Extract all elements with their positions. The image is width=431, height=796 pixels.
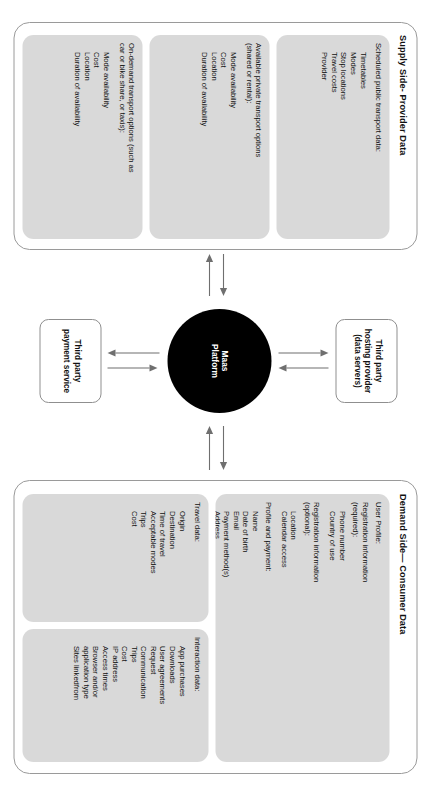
card-item-list: App purchases Downloads User agreements … — [71, 646, 186, 754]
card-heading: Scheduled public transport data: — [373, 43, 382, 231]
card-item-list: Phone number Country of use — [326, 511, 345, 754]
card-item-list: Mode availability Cost Location Duration… — [199, 52, 237, 231]
list-item: Mode availability — [100, 52, 110, 231]
third-party-payment-service-node: Third party payment service — [39, 319, 101, 403]
card-heading: Available private transport options (sha… — [243, 43, 262, 231]
list-item: Country of use — [326, 511, 336, 754]
maas-data-ecosystem-diagram: Supply Side- Provider Data Scheduled pub… — [0, 0, 431, 796]
list-item: Location — [208, 52, 218, 231]
list-item: Cost — [218, 52, 228, 231]
list-item: Location — [81, 52, 91, 231]
list-item: Downloads — [166, 646, 176, 754]
third-party-payment-service-label: Third party payment service — [59, 329, 80, 393]
list-item: Modes — [347, 52, 357, 231]
user-profile-group-profile-payment: Profile and payment: Name Date of birth … — [215, 502, 272, 754]
list-item: Calendar access — [278, 511, 288, 754]
list-item: Duration of availability — [199, 52, 209, 231]
demand-side-panel: Demand Side— Consumer Data User Profile:… — [13, 480, 417, 774]
user-profile-group-required: Registration information (required): Pho… — [326, 502, 368, 754]
list-item: Travel costs — [328, 52, 338, 231]
list-item: Browser and/or application type — [80, 646, 99, 754]
group-subheading: Registration information (required): — [350, 502, 369, 754]
list-item: Payment method(s) — [221, 511, 231, 754]
list-item: Time of travel — [157, 511, 167, 614]
list-item: Location — [288, 511, 298, 754]
list-item: Trips — [128, 646, 138, 754]
list-item: Name — [249, 511, 259, 754]
list-item: Duration of availability — [72, 52, 82, 231]
list-item: User agreements — [157, 646, 167, 754]
card-item-list: Origin Destination Time of travel Accept… — [128, 511, 185, 614]
list-item: Request — [147, 646, 157, 754]
card-heading: On-demand transport options (such as car… — [116, 43, 135, 231]
arrow-platform-to-payment-service — [105, 341, 161, 381]
list-item: Address — [215, 511, 221, 754]
maas-platform-label: Maas Platform — [209, 344, 230, 378]
arrow-supply-to-platform — [195, 252, 235, 298]
list-item: App purchases — [176, 646, 186, 754]
list-item: Cost — [91, 52, 101, 231]
card-user-profile: User Profile: Registration information (… — [215, 494, 389, 762]
card-travel-data: Travel data: Origin Destination Time of … — [22, 494, 208, 622]
list-item: Acceptable modes — [147, 511, 157, 614]
list-item: Email — [230, 511, 240, 754]
card-interaction-data: Interaction data: App purchases Download… — [22, 629, 208, 762]
group-subheading: Profile and payment: — [263, 502, 272, 754]
list-item: Timetables — [357, 52, 367, 231]
list-item: Origin — [176, 511, 186, 614]
list-item: Sites linkedfrom — [71, 646, 81, 754]
card-item-list: Name Date of birth Email Payment method(… — [215, 511, 259, 754]
group-subheading: Registration information (optional): — [301, 502, 320, 754]
supply-side-panel: Supply Side- Provider Data Scheduled pub… — [13, 22, 417, 250]
diagram-canvas: Supply Side- Provider Data Scheduled pub… — [0, 0, 431, 796]
list-item: Destination — [166, 511, 176, 614]
list-item: Stop locations — [338, 52, 348, 231]
list-item: Provider — [319, 52, 329, 231]
card-heading: Travel data: — [192, 502, 201, 614]
card-scheduled-public-transport: Scheduled public transport data: Timetab… — [276, 35, 389, 239]
list-item: Mode availability — [227, 52, 237, 231]
third-party-hosting-provider-label: Third party hosting provider (data serve… — [350, 329, 382, 394]
demand-side-title: Demand Side— Consumer Data — [397, 494, 407, 634]
list-item: Communication — [138, 646, 148, 754]
supply-side-title: Supply Side- Provider Data — [397, 35, 407, 156]
arrow-platform-to-hosting-provider — [276, 341, 330, 381]
maas-platform-node: Maas Platform — [167, 309, 271, 413]
card-item-list: Mode availability Cost Location Duration… — [72, 52, 110, 231]
arrow-platform-to-demand — [195, 424, 235, 472]
user-profile-group-optional: Registration information (optional): Loc… — [278, 502, 320, 754]
list-item: IP address — [109, 646, 119, 754]
list-item: Date of birth — [240, 511, 250, 754]
card-heading: User Profile: — [373, 502, 382, 754]
card-item-list: Timetables Modes Stop locations Travel c… — [319, 52, 367, 231]
list-item: Phone number — [336, 511, 346, 754]
card-on-demand-transport-options: On-demand transport options (such as car… — [22, 35, 142, 239]
third-party-hosting-provider-node: Third party hosting provider (data serve… — [335, 319, 397, 403]
card-private-transport-options: Available private transport options (sha… — [149, 35, 269, 239]
list-item: Access times — [99, 646, 109, 754]
list-item: Trips — [138, 511, 148, 614]
list-item: Cost — [128, 511, 138, 614]
list-item: Cost — [119, 646, 129, 754]
card-heading: Interaction data: — [192, 637, 201, 754]
card-item-list: Location Calendar access — [278, 511, 297, 754]
